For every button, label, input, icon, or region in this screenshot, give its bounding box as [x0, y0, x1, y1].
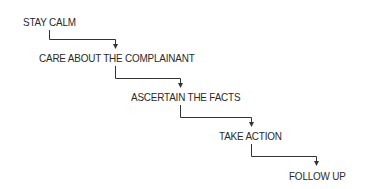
arrowhead-down-icon — [314, 161, 319, 166]
arrowhead-down-icon — [249, 122, 254, 127]
connector-3 — [181, 105, 252, 123]
connector-2 — [116, 66, 181, 84]
connector-1 — [50, 30, 116, 45]
arrowhead-down-icon — [113, 44, 118, 49]
arrowhead-down-icon — [178, 83, 183, 88]
connector-lines — [0, 0, 372, 189]
connector-4 — [252, 144, 317, 162]
